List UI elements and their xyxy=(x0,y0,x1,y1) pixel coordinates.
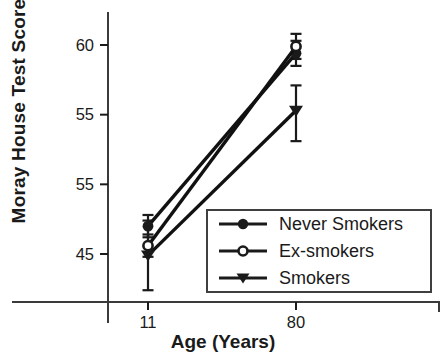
legend-row: Never Smokers xyxy=(218,212,430,236)
x-axis-label: Age (Years) xyxy=(123,331,323,353)
filled-triangle-down-icon xyxy=(218,269,268,287)
x-tick-label: 80 xyxy=(287,313,305,331)
open-circle-marker xyxy=(143,241,152,250)
y-tick-label: 60 xyxy=(76,36,94,54)
legend: Never SmokersEx-smokersSmokers xyxy=(206,209,432,293)
filled-circle-marker xyxy=(143,221,154,232)
y-tick-label: 55 xyxy=(76,175,94,193)
chart-plot: 605555451180 xyxy=(0,0,445,359)
open-circle-marker xyxy=(291,42,300,51)
filled-circle-icon xyxy=(218,215,268,233)
y-axis-label: Moray House Test Score xyxy=(8,0,30,261)
legend-row: Smokers xyxy=(218,266,430,290)
open-circle-icon xyxy=(218,242,268,260)
x-tick-label: 11 xyxy=(139,313,156,331)
legend-label: Ex-smokers xyxy=(279,241,374,262)
legend-label: Smokers xyxy=(279,268,350,289)
legend-row: Ex-smokers xyxy=(218,239,430,263)
figure: 605555451180 Moray House Test Score Age … xyxy=(0,0,445,359)
series-line-never-smokers xyxy=(148,53,296,226)
y-tick-label: 55 xyxy=(76,105,94,123)
y-tick-label: 45 xyxy=(76,245,94,263)
legend-label: Never Smokers xyxy=(279,214,403,235)
